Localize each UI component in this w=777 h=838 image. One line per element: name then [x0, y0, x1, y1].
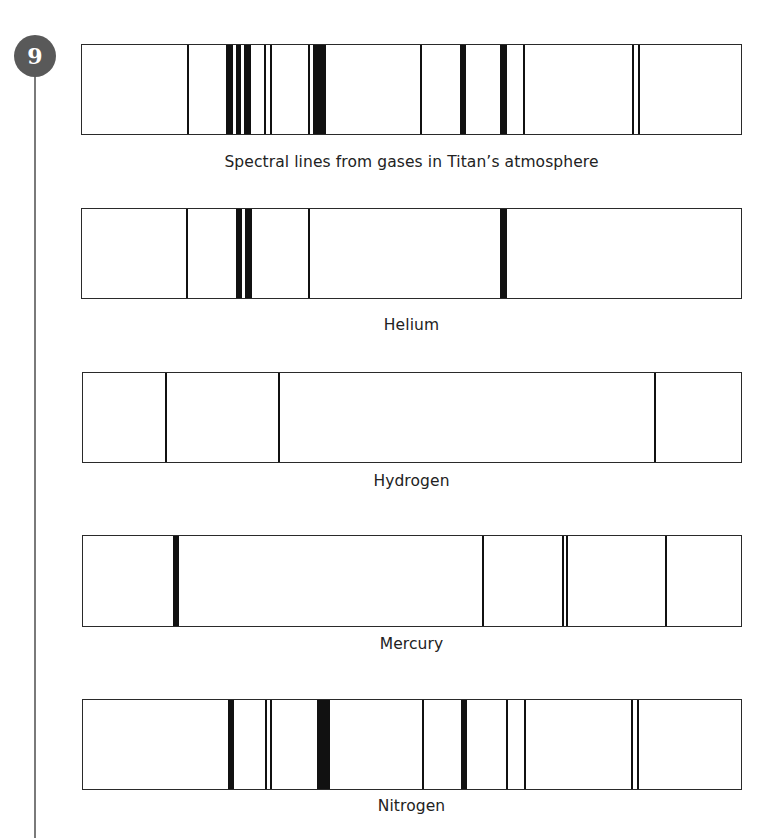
spectral-line	[264, 45, 266, 134]
spectral-line	[524, 700, 526, 789]
spectral-line	[313, 45, 326, 134]
spectral-line	[270, 45, 272, 134]
spectral-line	[632, 45, 634, 134]
spectral-line	[654, 373, 656, 462]
spectral-line	[500, 209, 507, 298]
spectral-line	[236, 209, 242, 298]
question-number: 9	[27, 43, 42, 69]
spectral-line	[173, 536, 179, 626]
spectrum-caption-titan: Spectral lines from gases in Titan’s atm…	[81, 153, 742, 171]
spectral-line	[500, 45, 507, 134]
spectral-line	[236, 45, 241, 134]
spectral-line	[420, 45, 422, 134]
spectral-line	[317, 700, 330, 789]
spectral-line	[637, 700, 639, 789]
spectral-line	[270, 700, 272, 789]
spectrum-caption-mercury: Mercury	[81, 635, 742, 653]
spectral-line	[245, 209, 252, 298]
spectrum-nitrogen	[82, 699, 742, 790]
spectral-line	[482, 536, 484, 626]
spectral-line	[461, 700, 467, 789]
spectrum-mercury	[82, 535, 742, 627]
spectral-line	[562, 536, 564, 626]
spectral-line	[226, 45, 233, 134]
spectrum-caption-helium: Helium	[81, 316, 742, 334]
spectral-line	[422, 700, 424, 789]
spectral-line	[523, 45, 525, 134]
spectral-line	[460, 45, 466, 134]
spectral-line	[278, 373, 280, 462]
spectral-line	[308, 45, 310, 134]
spectral-line	[566, 536, 568, 626]
spectrum-titan	[81, 44, 742, 135]
spectral-line	[165, 373, 167, 462]
timeline-rule	[34, 77, 36, 838]
spectral-line	[506, 700, 508, 789]
spectral-line	[187, 45, 189, 134]
spectrum-caption-nitrogen: Nitrogen	[81, 797, 742, 815]
spectral-line	[244, 45, 251, 134]
spectral-line	[186, 209, 188, 298]
spectrum-caption-hydrogen: Hydrogen	[81, 472, 742, 490]
spectral-line	[228, 700, 234, 789]
spectral-line	[265, 700, 267, 789]
spectral-line	[308, 209, 310, 298]
spectrum-hydrogen	[82, 372, 742, 463]
spectral-line	[638, 45, 640, 134]
spectral-line	[631, 700, 633, 789]
spectrum-helium	[81, 208, 742, 299]
question-number-badge: 9	[14, 35, 56, 77]
spectral-line	[665, 536, 667, 626]
